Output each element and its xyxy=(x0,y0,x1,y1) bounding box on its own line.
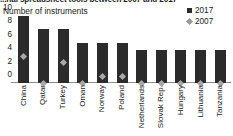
bar-group[interactable] xyxy=(191,16,211,83)
x-label-slot: Turkey xyxy=(53,84,73,136)
plot-area: 0246810 xyxy=(14,16,230,83)
x-tick-label: Poland xyxy=(118,85,126,110)
y-tick-label: 8 xyxy=(7,17,12,25)
x-tick-label: Tanzania xyxy=(216,85,224,117)
bar-group[interactable] xyxy=(210,16,230,83)
x-axis-labels: ChinaQatarTurkeyOmanNorwayPolandNetherla… xyxy=(14,84,230,136)
bar-group[interactable] xyxy=(73,16,93,83)
x-tick-label: Netherlands xyxy=(138,85,146,128)
y-tick-label: 2 xyxy=(7,58,12,66)
bar-2017[interactable] xyxy=(58,29,69,83)
y-tick-label: 6 xyxy=(7,31,12,39)
bar-chart: ...nal spreadsheet tools between 2007 an… xyxy=(0,0,233,136)
x-label-slot: Oman xyxy=(73,84,93,136)
x-tick-label: China xyxy=(20,85,28,106)
x-tick-label: Hungary xyxy=(177,85,185,115)
y-axis-caption: Number of instruments xyxy=(3,6,88,16)
x-label-slot: Slovak Rep. xyxy=(151,84,171,136)
y-tick-label: 0 xyxy=(7,71,12,79)
bar-2017[interactable] xyxy=(175,50,186,84)
square-marker-icon xyxy=(187,8,192,13)
x-label-slot: China xyxy=(14,84,34,136)
x-label-slot: Lithuania xyxy=(191,84,211,136)
chart-title-clipped: ...nal spreadsheet tools between 2007 an… xyxy=(0,0,233,4)
x-label-slot: Netherlands xyxy=(132,84,152,136)
y-tick-label: 4 xyxy=(7,44,12,52)
x-tick-label: Slovak Rep. xyxy=(157,85,165,128)
bar-group[interactable] xyxy=(112,16,132,83)
bar-group[interactable] xyxy=(53,16,73,83)
x-tick-label: Norway xyxy=(98,85,106,112)
bar-2017[interactable] xyxy=(77,43,88,83)
x-label-slot: Norway xyxy=(93,84,113,136)
legend-item-2017: 2017 xyxy=(187,6,231,15)
y-tick-label: 10 xyxy=(3,4,12,12)
bar-2017[interactable] xyxy=(136,50,147,84)
bar-2017[interactable] xyxy=(156,50,167,84)
page-title: ...nal spreadsheet tools between 2007 an… xyxy=(0,0,233,4)
bar-series-group xyxy=(14,16,230,83)
bar-2017[interactable] xyxy=(38,29,49,83)
x-label-slot: Poland xyxy=(112,84,132,136)
x-label-slot: Hungary xyxy=(171,84,191,136)
x-tick-label: Turkey xyxy=(59,85,67,109)
bar-2017[interactable] xyxy=(195,50,206,84)
bar-2017[interactable] xyxy=(18,16,29,83)
x-tick-label: Lithuania xyxy=(197,85,205,117)
x-tick-label: Oman xyxy=(79,85,87,107)
bar-group[interactable] xyxy=(132,16,152,83)
bar-group[interactable] xyxy=(171,16,191,83)
x-label-slot: Tanzania xyxy=(210,84,230,136)
bar-group[interactable] xyxy=(93,16,113,83)
x-label-slot: Qatar xyxy=(34,84,54,136)
x-tick-label: Qatar xyxy=(39,85,47,105)
bar-group[interactable] xyxy=(14,16,34,83)
legend-label-2017: 2017 xyxy=(195,6,213,15)
bar-group[interactable] xyxy=(151,16,171,83)
bar-group[interactable] xyxy=(34,16,54,83)
bar-2017[interactable] xyxy=(215,50,226,84)
